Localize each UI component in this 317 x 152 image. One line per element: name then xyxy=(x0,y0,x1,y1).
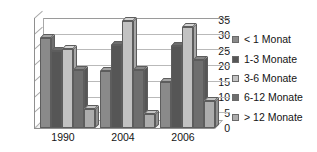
bar-groups xyxy=(34,18,215,128)
bar-1990-6-12monate xyxy=(73,70,84,128)
bar-2004-3-6monate xyxy=(122,21,133,128)
legend: < 1 Monat 1-3 Monate 3-6 Monate 6-12 Mon… xyxy=(232,30,317,127)
bar-chart: 35 30 25 20 15 10 5 0 xyxy=(0,0,317,152)
x-label-2004: 2004 xyxy=(100,132,146,143)
bar-1990-1-3monate xyxy=(51,51,62,128)
x-axis-line xyxy=(34,128,214,129)
bar-1990-gt12monate xyxy=(84,109,95,128)
x-label-2006: 2006 xyxy=(160,132,206,143)
legend-item-1-3monate: 1-3 Monate xyxy=(232,49,317,68)
legend-swatch-icon xyxy=(232,56,239,63)
legend-label: 3-6 Monate xyxy=(244,73,297,84)
legend-label: 1-3 Monate xyxy=(244,54,297,65)
bar-2004-1-3monate xyxy=(111,45,122,128)
legend-item-gt12monate: > 12 Monate xyxy=(232,108,317,127)
bar-group-2006 xyxy=(160,18,220,128)
bar-group-1990 xyxy=(40,18,100,128)
legend-swatch-icon xyxy=(232,75,239,82)
legend-swatch-icon xyxy=(232,94,239,101)
bar-1990-lt1monat xyxy=(40,38,51,128)
bar-2006-3-6monate xyxy=(182,27,193,128)
legend-swatch-icon xyxy=(232,36,239,43)
legend-label: 6-12 Monate xyxy=(244,92,303,103)
bar-2004-gt12monate xyxy=(144,114,155,128)
legend-item-lt1monat: < 1 Monat xyxy=(232,30,317,49)
plot-area: 35 30 25 20 15 10 5 0 xyxy=(0,0,230,152)
x-label-1990: 1990 xyxy=(40,132,86,143)
bar-2006-1-3monate xyxy=(171,46,182,128)
bar-1990-3-6monate xyxy=(62,49,73,128)
legend-label: > 12 Monate xyxy=(244,112,303,123)
bar-2006-lt1monat xyxy=(160,82,171,128)
bar-group-2004 xyxy=(100,18,160,128)
legend-item-3-6monate: 3-6 Monate xyxy=(232,69,317,88)
bar-2006-gt12monate xyxy=(204,101,215,128)
bar-2004-lt1monat xyxy=(100,71,111,128)
legend-item-6-12monate: 6-12 Monate xyxy=(232,88,317,107)
bar-2004-6-12monate xyxy=(133,70,144,128)
bar-2006-6-12monate xyxy=(193,60,204,128)
legend-label: < 1 Monat xyxy=(244,34,291,45)
legend-swatch-icon xyxy=(232,114,239,121)
